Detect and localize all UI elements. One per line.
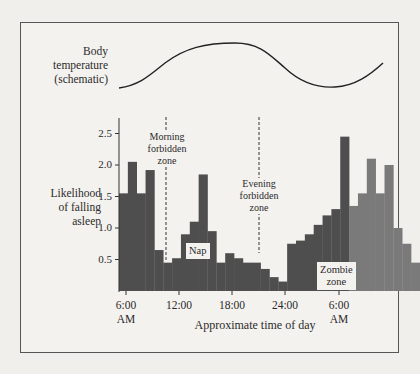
y-tick-label: 1.5 [88, 190, 112, 202]
bar [252, 263, 261, 291]
nap-label: Nap [186, 243, 210, 259]
evening-line3: zone [237, 202, 281, 214]
y-tick-label: 2.0 [88, 158, 112, 170]
bar [402, 244, 411, 291]
morning-forbidden-label: Morning forbidden zone [145, 131, 189, 167]
evening-line2: forbidden [237, 190, 281, 202]
evening-forbidden-label: Evening forbidden zone [237, 178, 281, 214]
bar [367, 159, 376, 291]
x-tick-label: 24:00 [265, 298, 305, 312]
y-ticks-group [115, 134, 119, 260]
bar [243, 263, 252, 291]
x-tick-label: 18:00 [212, 298, 252, 312]
bar [393, 228, 402, 291]
bar [385, 165, 394, 291]
bar [119, 193, 128, 291]
bar [163, 263, 172, 291]
zombie-line2: zone [320, 276, 353, 288]
x-tick-label: 6:00AM [106, 298, 146, 326]
evening-line1: Evening [237, 178, 281, 190]
y-tick-label: 0.5 [88, 253, 112, 265]
bar [199, 174, 208, 291]
bar [261, 269, 270, 291]
x-ticks-group [126, 291, 339, 295]
bar [172, 258, 181, 291]
bar [358, 193, 367, 291]
bar [128, 162, 137, 291]
bar [269, 277, 278, 291]
bar [216, 263, 225, 291]
y-tick-label: 1.0 [88, 221, 112, 233]
bar [154, 250, 163, 291]
zombie-line1: Zombie [320, 264, 353, 276]
bar [225, 253, 234, 291]
zombie-zone-label: Zombie zone [317, 262, 356, 290]
bar [376, 193, 385, 291]
x-axis-label: Approximate time of day [180, 318, 330, 332]
bar [278, 282, 287, 291]
temperature-curve [119, 43, 383, 88]
morning-line2: forbidden [145, 143, 189, 155]
morning-line3: zone [145, 155, 189, 167]
bar [146, 170, 155, 291]
bar [234, 258, 243, 291]
bar [137, 193, 146, 291]
x-tick-label: 12:00 [159, 298, 199, 312]
bar [305, 234, 314, 291]
morning-line1: Morning [145, 131, 189, 143]
y-tick-label: 2.5 [88, 127, 112, 139]
bar [411, 263, 420, 291]
bar [287, 244, 296, 291]
bar [296, 241, 305, 291]
bar [208, 231, 217, 291]
